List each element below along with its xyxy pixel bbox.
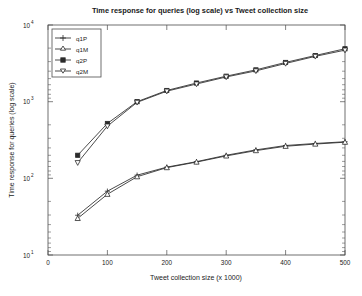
square-marker-icon (61, 58, 65, 62)
y-tick-exp-2: 2 (31, 173, 34, 178)
series-q1M (75, 140, 348, 221)
y-tick-exp-1: 1 (31, 250, 34, 255)
x-tick-300: 300 (221, 259, 232, 266)
legend-label-q1M: q1M (76, 46, 88, 53)
time-response-line-chart: Time response for queries (log scale) vs… (0, 0, 362, 296)
x-axis-label: Tweet collection size (x 1000) (150, 274, 242, 282)
x-tick-500: 500 (340, 259, 351, 266)
y-tick-10-base-1: 10 (23, 252, 31, 259)
series-q2M (75, 48, 348, 165)
y-tick-10-base-2: 10 (23, 175, 31, 182)
y-tick-10-base-3: 10 (23, 98, 31, 105)
y-tick-exp-3: 3 (31, 96, 34, 101)
y-axis-label: Time response for queries (log scale) (8, 82, 16, 197)
chart-figure: Time response for queries (log scale) vs… (0, 0, 362, 296)
series-q1P (75, 139, 348, 218)
x-tick-0: 0 (46, 259, 50, 266)
x-tick-200: 200 (161, 259, 172, 266)
x-tick-100: 100 (102, 259, 113, 266)
legend-label-q1P: q1P (76, 35, 87, 42)
series-line-q2M (78, 50, 345, 163)
y-tick-exp-4: 4 (31, 20, 34, 25)
series-layer (75, 47, 348, 221)
square-marker-icon (76, 153, 80, 157)
triangle-down-marker-icon (75, 161, 80, 166)
y-tick-10-base-4: 10 (23, 22, 31, 29)
series-line-q1P (78, 142, 345, 216)
series-line-q1M (78, 142, 345, 218)
x-tick-400: 400 (280, 259, 291, 266)
chart-title: Time response for queries (log scale) vs… (92, 6, 308, 15)
y-axis-tick-labels: 10 4 10 3 10 2 10 1 (23, 20, 34, 259)
y-axis-minor-ticks (48, 48, 345, 251)
legend-label-q2M: q2M (76, 68, 88, 75)
series-q2P (76, 47, 348, 158)
legend-label-q2P: q2P (76, 57, 87, 64)
x-axis-tick-labels: 0 100 200 300 400 500 (46, 259, 351, 266)
series-line-q2P (78, 49, 345, 156)
chart-legend: q1P q1M q2P q2M (52, 29, 101, 77)
